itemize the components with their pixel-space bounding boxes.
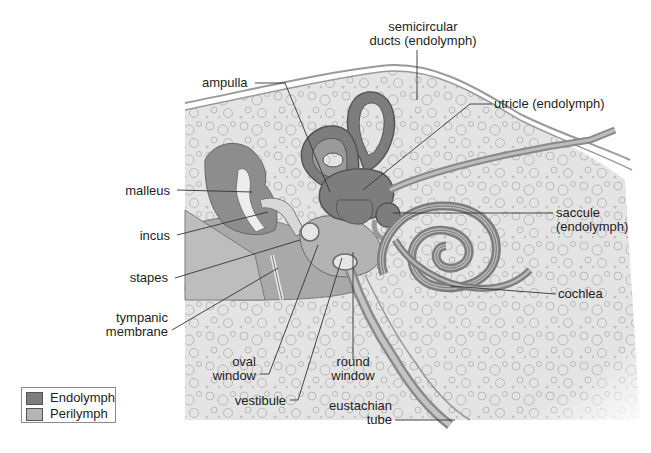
label-incus: incus xyxy=(110,229,170,243)
label-line: (endolymph) xyxy=(556,220,628,234)
label-line: ducts (endolymph) xyxy=(367,34,479,48)
label-line: round xyxy=(330,355,376,369)
label-line: window xyxy=(330,369,376,383)
label-stapes: stapes xyxy=(100,271,168,285)
label-oval-window: oval window xyxy=(200,355,256,383)
inner-ear-diagram: semicircular ducts (endolymph) ampulla u… xyxy=(0,0,651,453)
label-line: eustachian xyxy=(320,399,392,413)
perilymph-swatch xyxy=(26,408,43,421)
endolymph-swatch xyxy=(26,392,43,405)
label-line: window xyxy=(200,369,256,383)
legend-label: Perilymph xyxy=(50,407,108,421)
label-line: semicircular xyxy=(367,20,479,34)
label-vestibule: vestibule xyxy=(210,394,286,408)
label-cochlea: cochlea xyxy=(558,287,603,301)
label-utricle: utricle (endolymph) xyxy=(494,97,605,111)
label-line: tube xyxy=(320,413,392,427)
label-semicircular-ducts: semicircular ducts (endolymph) xyxy=(367,20,479,48)
ear-illustration xyxy=(0,0,651,453)
label-round-window: round window xyxy=(330,355,376,383)
label-eustachian-tube: eustachian tube xyxy=(320,399,392,427)
label-malleus: malleus xyxy=(110,184,170,198)
label-line: saccule xyxy=(556,206,628,220)
label-line: tympanic xyxy=(90,311,168,325)
legend: Endolymph Perilymph xyxy=(21,387,116,423)
label-line: membrane xyxy=(90,325,168,339)
label-tympanic-membrane: tympanic membrane xyxy=(90,311,168,339)
label-line: oval xyxy=(200,355,256,369)
label-ampulla: ampulla xyxy=(202,76,248,90)
legend-label: Endolymph xyxy=(50,391,115,405)
label-saccule: saccule (endolymph) xyxy=(556,206,628,234)
